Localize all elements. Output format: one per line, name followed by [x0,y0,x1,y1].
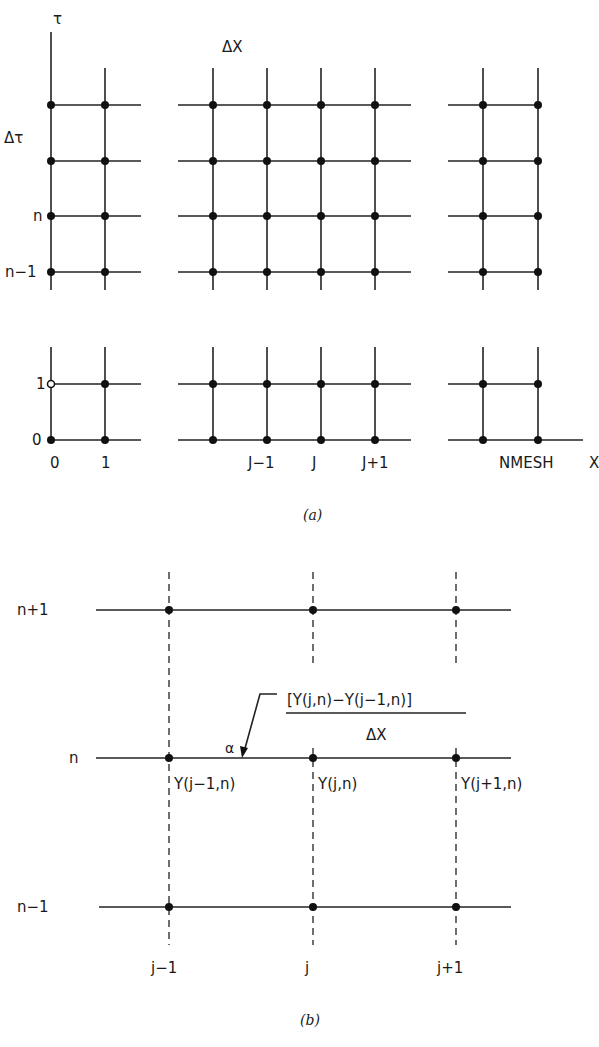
row-label-n-plus-1: n+1 [17,601,49,619]
node-label-y-jm1-n: Y(j−1,n) [173,775,235,793]
row-label-n: n [33,207,43,225]
col-label-j: J [311,454,316,472]
upper-left-grid [51,68,141,290]
slope-numerator: [Y(j,n)−Y(j−1,n)] [287,691,412,709]
lower-nodes [47,380,542,444]
col-label-j: j [304,959,309,977]
node-label-y-j-n: Y(j,n) [317,775,357,793]
col-label-j-plus-1: J+1 [361,454,389,472]
row-label-n-minus-1: n−1 [5,263,37,281]
figure-b-stencil: α [Y(j,n)−Y(j−1,n)] ΔX n+1 n n−1 Y(j−1,n… [17,572,522,1028]
col-label-0: 0 [50,454,60,472]
col-label-j-minus-1: J−1 [247,454,275,472]
col-label-1: 1 [101,454,111,472]
node-label-y-jp1-n: Y(j+1,n) [460,775,522,793]
col-label-j-minus-1: j−1 [150,959,177,977]
delta-tau-label: Δτ [4,129,23,147]
row-label-n-minus-1: n−1 [17,898,49,916]
tau-axis-label: τ [53,10,62,28]
figure-a-mesh: τ ΔX Δτ n n−1 1 0 0 1 J−1 J J+1 NMESH X … [4,10,599,523]
row-label-0: 0 [32,431,42,449]
delta-x-label: ΔX [222,38,243,56]
slope-denominator: ΔX [366,726,387,744]
row-label-n: n [69,749,79,767]
alpha-label: α [225,740,234,756]
caption-a: (a) [303,507,322,523]
x-axis-label: X [589,454,599,472]
lower-grid [51,347,583,440]
upper-right-grid [448,68,538,290]
upper-nodes [47,101,542,276]
row-label-1: 1 [36,375,46,393]
slope-leader-arrow [240,694,277,758]
col-label-j-plus-1: j+1 [436,959,463,977]
caption-b: (b) [300,1012,320,1028]
col-label-nmesh: NMESH [499,454,553,472]
figure-canvas: τ ΔX Δτ n n−1 1 0 0 1 J−1 J J+1 NMESH X … [0,0,599,1047]
